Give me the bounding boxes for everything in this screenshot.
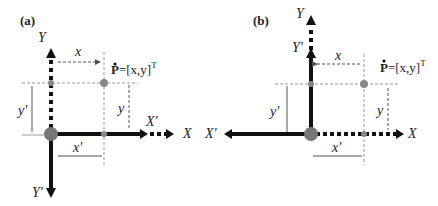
axis-y-label: Y xyxy=(296,6,306,21)
y-arrow-icon xyxy=(46,48,56,58)
dim-yp-label: y' xyxy=(16,103,28,118)
panel-a: (a) Y Y' X' X x y' y x' P=[x,y]T xyxy=(16,13,192,200)
point-p-dot xyxy=(360,80,368,88)
dim-x-label: x xyxy=(74,44,82,59)
x-arrow-icon xyxy=(166,129,174,139)
axis-xp-label: X' xyxy=(204,126,218,141)
origin-dot xyxy=(304,127,318,141)
proj-dot xyxy=(308,81,314,87)
point-label: P=[x,y]T xyxy=(380,58,426,75)
yp-arrow-icon xyxy=(306,48,316,58)
point-label: P=[x,y]T xyxy=(111,60,157,77)
point-p-dot xyxy=(100,79,108,87)
panel-b: (b) Y Y' X' X x y' y x' P=[x,y]T xyxy=(204,6,426,165)
origin-dot xyxy=(44,127,58,141)
dim-x-label: x xyxy=(334,48,342,63)
diagram-canvas: (a) Y Y' X' X x y' y x' P=[x,y]T xyxy=(0,0,438,206)
dim-yp-label: y' xyxy=(268,104,280,119)
yp-arrow-icon xyxy=(46,188,56,198)
proj-dot xyxy=(361,131,367,137)
dim-xp-label: x' xyxy=(331,140,342,155)
diagram-root: (a) Y Y' X' X x y' y x' P=[x,y]T xyxy=(0,0,438,206)
panel-a-label: (a) xyxy=(20,13,35,28)
panel-b-label: (b) xyxy=(253,13,269,28)
y-arrow-icon xyxy=(306,15,316,25)
x-arrow-icon xyxy=(396,129,404,139)
proj-dot xyxy=(101,131,107,137)
axis-yp-label: Y' xyxy=(292,40,304,55)
axis-y-label: Y xyxy=(38,30,48,45)
proj-dot xyxy=(48,80,54,86)
dim-y-label: y xyxy=(375,103,384,118)
axis-x-label: X xyxy=(407,126,417,141)
dim-y-label: y xyxy=(116,101,125,116)
axis-x-label: X xyxy=(182,126,192,141)
dim-xp-label: x' xyxy=(72,140,83,155)
xp-arrow-icon xyxy=(140,129,148,139)
xp-arrow-icon xyxy=(224,129,232,139)
axis-xp-label: X' xyxy=(145,114,159,129)
axis-yp-label: Y' xyxy=(32,185,44,200)
